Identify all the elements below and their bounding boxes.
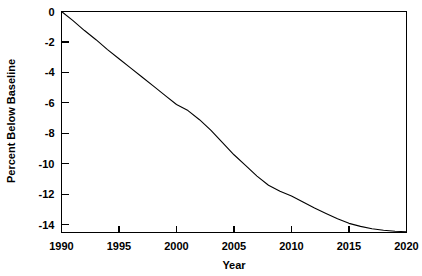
x-axis-title: Year bbox=[222, 259, 246, 271]
x-tick-label: 2020 bbox=[394, 240, 418, 252]
x-tick-label: 2015 bbox=[337, 240, 361, 252]
y-tick-label: -2 bbox=[45, 36, 55, 48]
y-tick-label: -14 bbox=[39, 219, 56, 231]
y-tick-label: -10 bbox=[39, 158, 55, 170]
x-tick-label: 1990 bbox=[49, 240, 73, 252]
x-tick-label: 2005 bbox=[222, 240, 246, 252]
chart-container: 1990199520002005201020152020 0-2-4-6-8-1… bbox=[0, 0, 422, 276]
y-axis-tick-marks bbox=[62, 12, 69, 225]
data-series-group bbox=[62, 12, 407, 232]
y-axis-tick-labels: 0-2-4-6-8-10-12-14 bbox=[39, 6, 56, 231]
line-chart: 1990199520002005201020152020 0-2-4-6-8-1… bbox=[0, 0, 422, 276]
y-axis-title: Percent Below Baseline bbox=[5, 59, 17, 183]
x-axis-tick-labels: 1990199520002005201020152020 bbox=[49, 240, 418, 252]
axis-frame bbox=[62, 12, 407, 233]
plot-frame bbox=[62, 12, 407, 233]
y-tick-label: -8 bbox=[45, 127, 55, 139]
y-tick-label: -6 bbox=[45, 97, 55, 109]
y-tick-label: 0 bbox=[48, 6, 54, 18]
x-tick-label: 2010 bbox=[279, 240, 303, 252]
y-tick-label: -4 bbox=[45, 66, 56, 78]
x-tick-label: 1995 bbox=[107, 240, 131, 252]
series-line bbox=[62, 12, 407, 232]
x-tick-label: 2000 bbox=[164, 240, 188, 252]
x-axis-tick-marks bbox=[62, 226, 407, 233]
y-tick-label: -12 bbox=[39, 188, 55, 200]
